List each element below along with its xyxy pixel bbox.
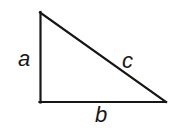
side-label-c: c <box>122 50 133 72</box>
side-label-b: b <box>95 104 107 126</box>
right-triangle-figure: a b c <box>0 0 179 128</box>
hypotenuse-line <box>40 13 166 103</box>
side-label-a: a <box>18 48 30 70</box>
